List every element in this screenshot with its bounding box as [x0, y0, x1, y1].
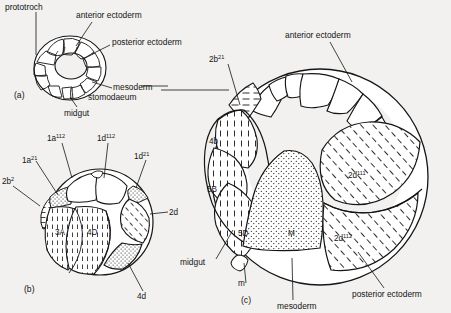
label-2b21-sup: 21: [218, 54, 224, 60]
label-anterior-ectoderm-a: anterior ectoderm: [76, 10, 142, 20]
label-stomodaeum: stomodaeum: [88, 92, 136, 102]
svg-text:1a112: 1a112: [47, 133, 65, 144]
label-5B: 5B: [207, 185, 218, 194]
panel-a-drawing: prototroch anterior ectoderm posterior e…: [5, 2, 182, 118]
label-4b: 4b: [209, 137, 219, 146]
svg-text:1d21: 1d21: [134, 151, 149, 162]
panel-a-caption: (a): [14, 90, 25, 100]
label-M: M: [288, 229, 295, 238]
label-midgut-a: midgut: [64, 108, 90, 118]
label-m: m: [238, 279, 245, 288]
label-posterior-ectoderm-a: posterior ectoderm: [112, 37, 182, 47]
figure-root: prototroch anterior ectoderm posterior e…: [0, 0, 451, 313]
label-1a112-sup: 112: [56, 133, 65, 139]
label-2d112-base: 2d: [334, 234, 344, 243]
panel-c-caption: (c): [241, 295, 251, 305]
figure-svg: prototroch anterior ectoderm posterior e…: [0, 0, 451, 313]
panel-b-caption: (b): [24, 284, 35, 294]
label-1d21-base: 1d: [134, 152, 144, 161]
label-2d111-sup: 111: [357, 170, 366, 176]
label-1d112-sup: 112: [106, 133, 115, 139]
label-anterior-ectoderm-c: anterior ectoderm: [285, 30, 351, 40]
label-prototroch: prototroch: [5, 2, 43, 12]
label-1d112-base: 1d: [97, 134, 107, 143]
label-1a21-base: 1a: [22, 156, 32, 165]
label-midgut-c: midgut: [180, 257, 206, 267]
svg-text:2b2: 2b2: [2, 176, 14, 187]
label-5D: 5D: [238, 229, 249, 238]
label-2b21-base: 2b: [209, 55, 219, 64]
label-4D: 4D: [87, 228, 98, 237]
svg-text:1a21: 1a21: [22, 155, 37, 166]
label-1a112-base: 1a: [47, 134, 57, 143]
label-mesoderm-c: mesoderm: [277, 301, 317, 311]
label-posterior-ectoderm-c: posterior ectoderm: [352, 289, 422, 299]
svg-text:1d112: 1d112: [97, 133, 115, 144]
label-1a21-sup: 21: [31, 155, 37, 161]
label-2d112-sup: 112: [343, 233, 352, 239]
svg-text:2b21: 2b21: [209, 54, 224, 65]
panel-c-drawing: anterior ectoderm 2b21 4b 5B 5D M m 2d11…: [161, 30, 428, 311]
label-2d111-base: 2d: [348, 171, 358, 180]
label-2d-b: 2d: [169, 208, 179, 217]
label-4d-b: 4d: [137, 292, 147, 301]
panel-b-drawing: 1a112 1d112 1a21 1d21 2b2 2d 4d 3A 4D (b…: [2, 133, 179, 302]
label-mesoderm-a: mesoderm: [113, 82, 153, 92]
label-2b2-base: 2b: [2, 177, 12, 186]
label-1d21-sup: 21: [143, 151, 149, 157]
label-3A: 3A: [55, 228, 66, 237]
label-2b2-sup: 2: [11, 176, 14, 182]
